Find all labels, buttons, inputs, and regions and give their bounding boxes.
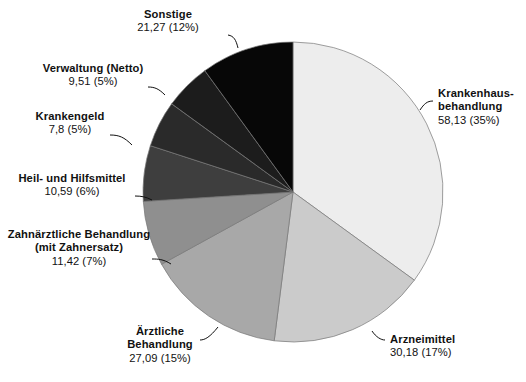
leader-line-krankengeld — [110, 135, 132, 145]
pie-label-zahnaerztliche-behandlung-name2: (mit Zahnersatz) — [6, 241, 152, 254]
pie-label-krankenhausbehandlung: Krankenhaus- behandlung 58,13 (35%) — [438, 87, 526, 127]
pie-label-krankenhausbehandlung-name2: behandlung — [438, 100, 526, 113]
pie-label-zahnaerztliche-behandlung-name: Zahnärztliche Behandlung — [6, 228, 152, 241]
pie-label-heil-und-hilfsmittel: Heil- und Hilfsmittel 10,59 (6%) — [10, 172, 134, 199]
pie-label-verwaltung-netto-value: 9,51 (5%) — [38, 75, 148, 88]
pie-label-sonstige-name: Sonstige — [118, 8, 218, 21]
leader-line-sonstige — [228, 35, 238, 48]
pie-label-aerztliche-behandlung: Ärztliche Behandlung 27,09 (15%) — [116, 325, 204, 365]
leader-line-krankenhausbehandlung — [420, 101, 433, 110]
pie-label-sonstige-value: 21,27 (12%) — [118, 21, 218, 34]
pie-label-aerztliche-behandlung-name: Ärztliche — [116, 325, 204, 338]
pie-label-krankengeld-value: 7,8 (5%) — [30, 123, 110, 136]
pie-label-krankenhausbehandlung-name: Krankenhaus- — [438, 87, 526, 100]
pie-chart-figure: Sonstige 21,27 (12%) Verwaltung (Netto) … — [0, 0, 526, 382]
pie-label-sonstige: Sonstige 21,27 (12%) — [118, 8, 218, 35]
pie-label-krankenhausbehandlung-value: 58,13 (35%) — [438, 114, 526, 127]
pie-slice-group — [143, 42, 443, 342]
pie-label-aerztliche-behandlung-name2: Behandlung — [116, 338, 204, 351]
pie-label-zahnaerztliche-behandlung: Zahnärztliche Behandlung (mit Zahnersatz… — [6, 228, 152, 268]
pie-label-arzneimittel-name: Arzneimittel — [390, 333, 500, 346]
pie-label-heil-und-hilfsmittel-name: Heil- und Hilfsmittel — [10, 172, 134, 185]
pie-label-zahnaerztliche-behandlung-value: 11,42 (7%) — [6, 255, 152, 268]
pie-label-krankengeld: Krankengeld 7,8 (5%) — [30, 110, 110, 137]
leader-line-arzneimittel — [372, 331, 385, 340]
pie-label-krankengeld-name: Krankengeld — [30, 110, 110, 123]
pie-label-verwaltung-netto-name: Verwaltung (Netto) — [38, 62, 148, 75]
leader-line-verwaltung-netto — [148, 87, 165, 95]
pie-label-verwaltung-netto: Verwaltung (Netto) 9,51 (5%) — [38, 62, 148, 89]
pie-label-arzneimittel: Arzneimittel 30,18 (17%) — [390, 333, 500, 360]
pie-label-aerztliche-behandlung-value: 27,09 (15%) — [116, 352, 204, 365]
pie-label-heil-und-hilfsmittel-value: 10,59 (6%) — [10, 185, 134, 198]
pie-label-arzneimittel-value: 30,18 (17%) — [390, 346, 500, 359]
